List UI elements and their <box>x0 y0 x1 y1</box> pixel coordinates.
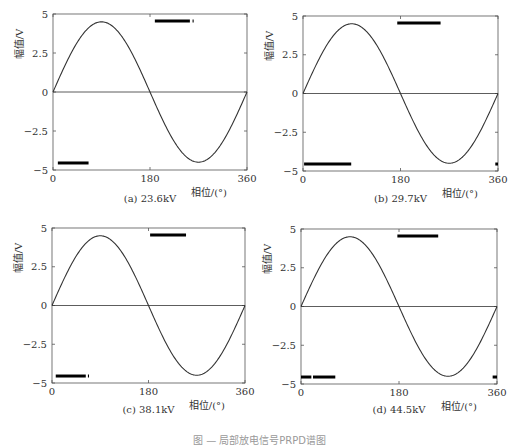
y-tick-label: 0 <box>42 87 48 98</box>
y-tick-label: 5 <box>42 9 48 20</box>
x-tick-label: 360 <box>488 174 507 185</box>
y-tick-label: −5 <box>33 165 48 176</box>
y-tick-label: 0 <box>292 88 298 99</box>
y-tick-label: 5 <box>292 11 298 22</box>
x-tick-label: 0 <box>50 173 56 184</box>
figure-caption: 图 — 局部放电信号PRPD谱图 <box>0 432 519 447</box>
y-tick-label: −5 <box>32 378 47 389</box>
panel-a: 52.50−2.5−50180360相位/(°)幅值/V <box>13 9 257 199</box>
y-tick-label: −2.5 <box>272 340 296 351</box>
y-axis-label: 幅值/V <box>263 30 275 61</box>
x-tick-label: 360 <box>237 173 256 184</box>
x-tick-label: 180 <box>389 387 408 398</box>
x-tick-label: 180 <box>139 386 158 397</box>
y-tick-label: 2.5 <box>32 48 48 59</box>
y-axis-label: 幅值/V <box>261 243 273 274</box>
x-tick-label: 360 <box>487 387 506 398</box>
y-tick-label: −5 <box>283 166 298 177</box>
y-tick-label: 5 <box>41 223 47 234</box>
y-tick-label: −2.5 <box>24 126 48 137</box>
x-tick-label: 0 <box>300 174 306 185</box>
y-tick-label: 0 <box>41 300 47 311</box>
panel-c: 52.50−2.5−50180360相位/(°)幅值/V <box>12 223 255 412</box>
panel-caption-c: (c) 38.1kV <box>89 404 209 415</box>
panel-b: 52.50−2.5−50180360相位/(°)幅值/V <box>263 11 508 200</box>
x-tick-label: 180 <box>140 173 159 184</box>
y-tick-label: −2.5 <box>274 127 298 138</box>
x-tick-label: 0 <box>298 387 304 398</box>
x-tick-label: 360 <box>235 386 254 397</box>
panel-caption-d: (d) 44.5kV <box>339 404 459 415</box>
panel-d: 52.50−2.5−50180360相位/(°)幅值/V <box>261 224 507 413</box>
y-tick-label: −5 <box>281 379 296 390</box>
y-tick-label: 5 <box>290 224 296 235</box>
y-tick-label: 2.5 <box>282 49 298 60</box>
x-tick-label: 180 <box>391 174 410 185</box>
y-tick-label: 2.5 <box>31 261 47 272</box>
y-tick-label: −2.5 <box>23 339 47 350</box>
y-tick-label: 0 <box>290 301 296 312</box>
x-tick-label: 0 <box>49 386 55 397</box>
panel-caption-b: (b) 29.7kV <box>341 193 461 204</box>
y-axis-label: 幅值/V <box>13 28 25 59</box>
y-tick-label: 2.5 <box>280 262 296 273</box>
panel-caption-a: (a) 23.6kV <box>90 193 210 204</box>
y-axis-label: 幅值/V <box>12 242 24 273</box>
